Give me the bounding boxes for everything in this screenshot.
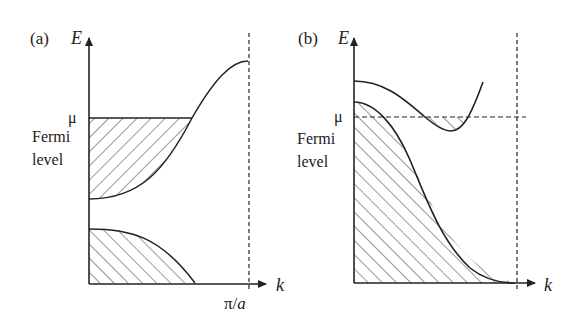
panel-a-tag: (a) xyxy=(30,29,49,48)
panel-b-tag: (b) xyxy=(298,29,318,48)
panel-a-upper-band-filled-region xyxy=(89,118,192,199)
panel-b-lower-band-filled-region xyxy=(354,117,515,283)
panel-b: (b) E k μ Fermi level xyxy=(297,28,553,295)
panel-a: (a) E k μ Fermi level π/a xyxy=(30,28,285,313)
panel-a-fermi-label: Fermi xyxy=(32,128,71,145)
panel-b-k-axis-label: k xyxy=(544,275,553,295)
figure-svg: (a) E k μ Fermi level π/a (b) E k μ Ferm… xyxy=(0,0,577,324)
panel-b-level-label: level xyxy=(297,153,329,170)
band-structure-figure: (a) E k μ Fermi level π/a (b) E k μ Ferm… xyxy=(0,0,577,324)
panel-a-k-axis-label: k xyxy=(276,275,285,295)
panel-a-mu-label: μ xyxy=(68,109,77,127)
panel-b-lower-band-filled-cap xyxy=(354,102,382,117)
panel-a-zone-boundary-label: π/a xyxy=(224,294,246,313)
panel-b-fermi-label: Fermi xyxy=(297,130,336,147)
panel-a-energy-axis-label: E xyxy=(70,28,82,48)
panel-a-level-label: level xyxy=(32,151,64,168)
panel-b-energy-axis-label: E xyxy=(337,28,349,48)
panel-b-mu-label: μ xyxy=(334,108,343,126)
